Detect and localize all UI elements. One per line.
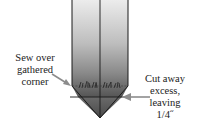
label-line: Cut away: [134, 73, 196, 85]
label-line: Sew over: [2, 52, 68, 64]
label-line: corner: [2, 76, 68, 88]
fabric-strip: [70, 0, 130, 118]
label-cut-away-excess: Cut away excess, leaving 1/4˝: [134, 73, 196, 121]
label-line: 1/4˝: [134, 109, 196, 121]
label-line: excess,: [134, 85, 196, 97]
label-line: gathered: [2, 64, 68, 76]
sewing-diagram: Sew over gathered corner Cut away excess…: [0, 0, 197, 136]
label-line: leaving: [134, 97, 196, 109]
label-sew-over-gathered-corner: Sew over gathered corner: [2, 52, 68, 88]
